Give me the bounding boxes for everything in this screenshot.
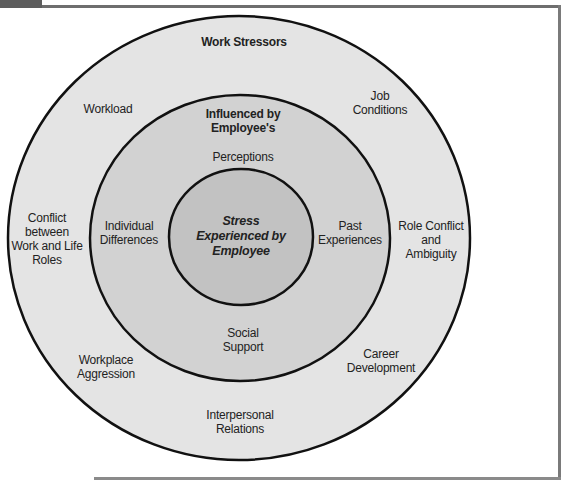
influence-social-support: Social Support	[223, 326, 264, 354]
middle-ring-title: Influenced by Employee's	[206, 107, 281, 135]
stressor-workload: Workload	[84, 102, 133, 116]
stressor-interpersonal-relations: Interpersonal Relations	[206, 408, 273, 436]
stressor-career-development: Career Development	[347, 347, 416, 375]
influence-individual-differences: Individual Differences	[100, 219, 158, 247]
influence-perceptions: Perceptions	[212, 150, 273, 164]
center-stress-label: Stress Experienced by Employee	[196, 214, 286, 259]
stressor-job-conditions: Job Conditions	[353, 89, 408, 117]
stressor-workplace-aggression: Workplace Aggression	[77, 353, 135, 381]
influence-past-experiences: Past Experiences	[318, 219, 382, 247]
stressor-conflict-work-life: Conflict between Work and Life Roles	[11, 211, 82, 267]
outer-ring-title: Work Stressors	[201, 35, 287, 49]
stressor-role-conflict: Role Conflict and Ambiguity	[398, 219, 463, 261]
